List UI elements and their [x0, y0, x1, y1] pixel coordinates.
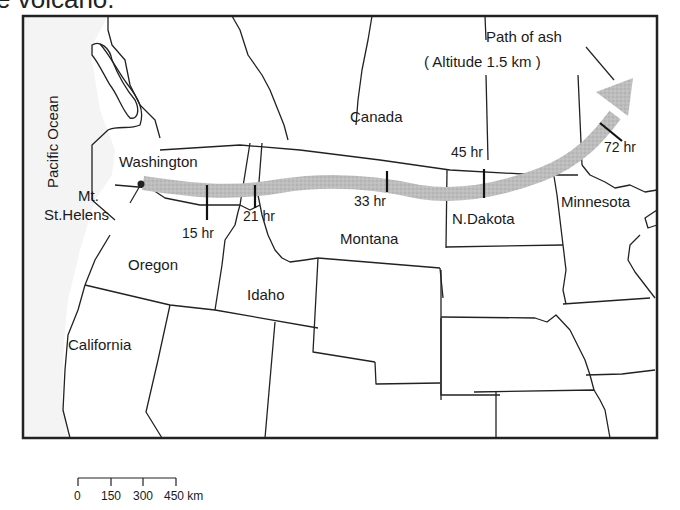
path-label-line2: ( Altitude 1.5 km ) — [424, 53, 541, 70]
state-label-washington: Washington — [119, 153, 198, 170]
ash-path-arrowhead — [596, 78, 633, 116]
time-label-72hr: 72 hr — [604, 139, 636, 155]
volcano-label-line1: Mt. — [78, 187, 99, 204]
scale-tick-450: 450 km — [164, 489, 203, 503]
ash-path-map: Pacific Ocean Canada Path of ash ( Altit… — [0, 0, 680, 510]
state-label-north-dakota: N.Dakota — [452, 210, 515, 227]
map-border — [23, 16, 657, 438]
time-label-33hr: 33 hr — [354, 193, 386, 209]
time-label-15hr: 15 hr — [182, 225, 214, 241]
path-label-line1: Path of ash — [486, 28, 562, 45]
ocean-label: Pacific Ocean — [44, 95, 61, 188]
state-label-california: California — [68, 336, 132, 353]
canada-label: Canada — [350, 108, 403, 125]
scale-tick-0: 0 — [74, 489, 81, 503]
time-label-45hr: 45 hr — [451, 144, 483, 160]
scale-tick-150: 150 — [101, 489, 121, 503]
time-label-21hr: 21 hr — [243, 208, 275, 224]
state-label-idaho: Idaho — [247, 286, 285, 303]
state-label-minnesota: Minnesota — [561, 193, 631, 210]
state-label-oregon: Oregon — [128, 256, 178, 273]
state-label-montana: Montana — [340, 230, 399, 247]
path-label-leader — [586, 47, 614, 80]
ocean-area — [23, 16, 115, 438]
scale-bar — [78, 478, 176, 486]
scale-tick-300: 300 — [133, 489, 153, 503]
volcano-label-line2: St.Helens — [44, 206, 109, 223]
state-borders — [63, 16, 657, 438]
